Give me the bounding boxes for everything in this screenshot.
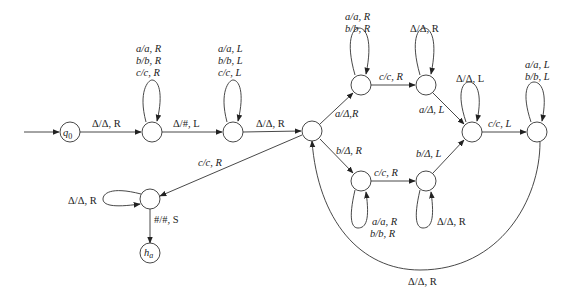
edge-s9-s3 — [312, 141, 540, 270]
label-s6-s7: c/c, R — [374, 167, 398, 178]
label-s4-loop-1: a/a, R — [345, 11, 371, 22]
loop-s10 — [103, 191, 141, 206]
state-ha: ha — [140, 243, 160, 263]
state-s6 — [351, 171, 371, 191]
state-s3 — [302, 121, 322, 141]
label-s5-s8: a/Δ, L — [419, 104, 445, 115]
label-s8-loop: Δ/Δ, L — [456, 73, 484, 84]
loop-s7 — [416, 190, 432, 228]
state-s10 — [140, 189, 160, 209]
label-s1-loop-1: a/a, R — [136, 43, 162, 54]
label-s6-loop-1: a/a, R — [372, 216, 398, 227]
q0-sub: 0 — [68, 132, 72, 141]
label-q0-s1: Δ/Δ, R — [92, 118, 121, 129]
label-s10-ha: #/#, S — [154, 214, 179, 225]
state-s5 — [416, 75, 436, 95]
loop-s5 — [415, 28, 434, 75]
state-q0: q0 — [60, 122, 80, 142]
label-s1-loop-2: b/b, R — [136, 55, 162, 66]
turing-machine-diagram: Δ/Δ, R a/a, R b/b, R c/c, R Δ/#, L a/a, … — [0, 0, 572, 301]
label-s4-loop-2: b/b, R — [345, 23, 371, 34]
label-s9-loop-2: b/b, L — [525, 71, 550, 82]
label-s2-s3: Δ/Δ, R — [256, 118, 285, 129]
loop-s8 — [461, 82, 479, 122]
loop-s4 — [350, 28, 369, 75]
label-s6-loop-2: b/b, R — [370, 228, 396, 239]
edge-s2-s3 — [243, 131, 301, 132]
state-s1 — [142, 122, 162, 142]
label-s5-loop: Δ/Δ, R — [410, 23, 439, 34]
label-s2-loop-3: c/c, L — [218, 67, 241, 78]
state-s2 — [223, 122, 243, 142]
label-s8-s9: c/c, L — [488, 118, 511, 129]
state-s4 — [351, 75, 371, 95]
label-s9-loop-1: a/a, L — [525, 59, 550, 70]
state-s9 — [527, 122, 547, 142]
loop-s9 — [526, 82, 544, 122]
label-s1-loop-3: c/c, R — [136, 67, 160, 78]
label-s3-s10: c/c, R — [198, 157, 222, 168]
edge-s3-s10 — [160, 135, 302, 196]
loop-s2 — [224, 80, 241, 122]
state-s8 — [462, 122, 482, 142]
label-s7-s8: b/Δ, L — [416, 148, 442, 159]
state-s7 — [416, 171, 436, 191]
label-s9-s3: Δ/Δ, R — [408, 276, 437, 287]
ha-sub: a — [149, 251, 153, 260]
label-s7-loop: Δ/Δ, R — [437, 216, 466, 227]
label-s2-loop-1: a/a, L — [218, 43, 243, 54]
loop-s1 — [143, 80, 160, 122]
label-s3-s6: b/Δ, R — [336, 145, 363, 156]
label-s10-loop: Δ/Δ, R — [68, 195, 97, 206]
label-s4-s5: c/c, R — [379, 71, 403, 82]
label-s1-s2: Δ/#, L — [173, 118, 200, 129]
label-s3-s4: a/Δ,R — [335, 108, 359, 119]
loop-s6 — [351, 190, 367, 228]
label-s2-loop-2: b/b, L — [218, 55, 243, 66]
